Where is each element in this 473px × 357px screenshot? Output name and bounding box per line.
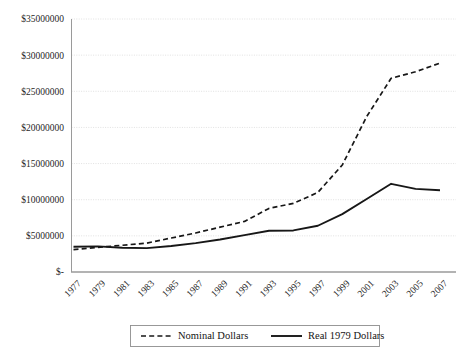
x-axis-tick-label: 1977 [62, 278, 83, 299]
x-axis-tick-label: 1987 [185, 278, 206, 299]
y-axis-tick-label: $25000000 [21, 87, 64, 97]
x-axis-tick-label: 1991 [233, 278, 254, 299]
y-axis-tick-label: $- [56, 267, 64, 277]
x-axis-tick-label: 1995 [282, 278, 303, 299]
x-axis-tick-label: 1999 [331, 278, 352, 299]
chart-legend: Nominal Dollars Real 1979 Dollars [131, 326, 385, 347]
x-axis-tick-label: 2003 [380, 278, 401, 299]
x-axis-tick-label: 2007 [429, 278, 450, 299]
x-axis-tick-label: 1989 [209, 278, 230, 299]
x-axis-tick-label: 2005 [404, 278, 425, 299]
y-axis-tick-label: $5000000 [26, 231, 64, 241]
y-axis-tick-label: $35000000 [21, 14, 64, 24]
y-axis-tick-label: $20000000 [21, 123, 64, 133]
x-axis-tick-label: 1985 [160, 278, 181, 299]
x-axis-tick-label: 1979 [87, 278, 108, 299]
y-axis-tick-label: $10000000 [21, 195, 64, 205]
y-axis-labels-group: $-$5000000$10000000$15000000$20000000$25… [21, 14, 64, 277]
gridlines-group [72, 19, 457, 236]
x-axis-labels-group: 1977197919811983198519871989199119931995… [62, 278, 449, 299]
series-line-real-1979-dollars [74, 184, 441, 248]
x-axis-tick-label: 2001 [356, 278, 377, 299]
x-axis-tick-label: 1983 [136, 278, 157, 299]
legend-label-nominal-dollars: Nominal Dollars [178, 330, 248, 341]
line-chart: $-$5000000$10000000$15000000$20000000$25… [0, 0, 473, 357]
x-axis-tick-label: 1997 [307, 278, 328, 299]
y-axis-tick-label: $30000000 [21, 51, 64, 61]
legend-label-real-1979-dollars: Real 1979 Dollars [308, 330, 384, 341]
chart-container: $-$5000000$10000000$15000000$20000000$25… [0, 0, 473, 357]
x-axis-tick-label: 1993 [258, 278, 279, 299]
y-axis-tick-label: $15000000 [21, 159, 64, 169]
x-axis-tick-label: 1981 [111, 278, 132, 299]
